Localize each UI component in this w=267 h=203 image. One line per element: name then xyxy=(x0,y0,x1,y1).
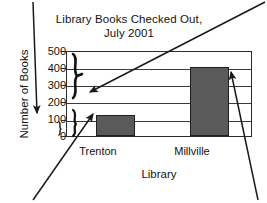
plot-area xyxy=(66,51,252,137)
x-tick-label-millville: Millville xyxy=(164,145,220,157)
x-tick-label-trenton: Trenton xyxy=(70,145,126,157)
x-axis-title: Library xyxy=(66,168,252,180)
page-title: Library Books Checked Out, July 2001 xyxy=(36,12,222,40)
bar-trenton xyxy=(96,115,135,137)
chart-screenshot: Library Books Checked Out, July 2001 Num… xyxy=(0,0,267,203)
chart-title-line-1: Library Books Checked Out, xyxy=(56,13,202,25)
chart-title-line-2: July 2001 xyxy=(36,26,222,40)
y-axis-title: Number of Books xyxy=(18,34,30,154)
bar-millville xyxy=(190,67,229,136)
